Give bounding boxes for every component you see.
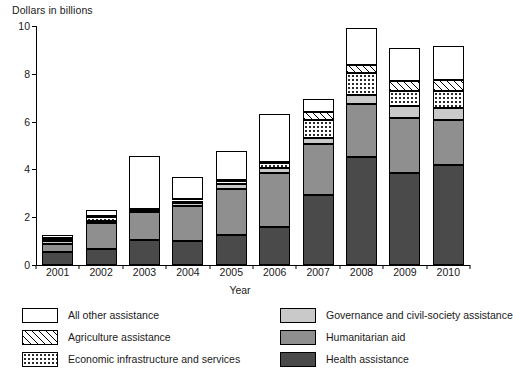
bar-2009 — [389, 48, 420, 265]
y-tick-mark — [32, 169, 36, 170]
bar-segment — [216, 181, 247, 183]
bar-2010 — [433, 46, 464, 265]
x-tick-mark — [470, 265, 471, 269]
y-tick-label: 6 — [0, 116, 30, 127]
bar-segment — [216, 151, 247, 180]
bar-segment — [389, 118, 420, 173]
bar-segment — [172, 206, 203, 241]
bar-segment — [346, 28, 377, 65]
x-tick-label: 2004 — [176, 266, 199, 278]
bar-segment — [433, 108, 464, 120]
bar-segment — [216, 184, 247, 189]
bar-segment — [86, 221, 117, 223]
bar-segment — [389, 106, 420, 118]
bar-segment — [42, 252, 73, 265]
legend-swatch-icon — [280, 308, 316, 323]
bar-segment — [433, 165, 464, 265]
x-tick-mark — [296, 265, 297, 269]
legend-label: Health assistance — [326, 353, 409, 365]
x-tick-label: 2001 — [46, 266, 69, 278]
legend-item: Health assistance — [280, 349, 513, 369]
bar-segment — [389, 81, 420, 91]
bar-segment — [389, 91, 420, 107]
x-tick-label: 2008 — [350, 266, 373, 278]
bar-2005 — [216, 151, 247, 265]
bar-segment — [433, 91, 464, 109]
x-tick-mark — [166, 265, 167, 269]
bar-segment — [42, 235, 73, 237]
bar-segment — [433, 80, 464, 91]
x-tick-label: 2005 — [220, 266, 243, 278]
bar-2004 — [172, 177, 203, 265]
x-tick-mark — [339, 265, 340, 269]
chart-legend: All other assistanceAgriculture assistan… — [22, 305, 462, 367]
bar-segment — [346, 95, 377, 103]
legend-swatch-icon — [22, 352, 58, 367]
bar-segment — [129, 156, 160, 209]
x-tick-mark — [253, 265, 254, 269]
bar-2002 — [86, 210, 117, 265]
x-tick-label: 2010 — [437, 266, 460, 278]
bar-segment — [86, 223, 117, 249]
y-tick-label: 4 — [0, 164, 30, 175]
bar-segment — [303, 138, 334, 144]
x-tick-mark — [426, 265, 427, 269]
bar-segment — [172, 203, 203, 207]
legend-item: Agriculture assistance — [22, 327, 240, 347]
bar-segment — [216, 189, 247, 236]
bar-segment — [86, 249, 117, 265]
bar-segment — [216, 235, 247, 265]
x-tick-label: 2007 — [306, 266, 329, 278]
legend-item: All other assistance — [22, 305, 240, 325]
legend-item: Economic infrastructure and services — [22, 349, 240, 369]
bar-segment — [129, 212, 160, 239]
bar-segment — [259, 163, 290, 168]
y-tick-mark — [32, 74, 36, 75]
legend-label: Agriculture assistance — [68, 331, 171, 343]
bar-segment — [172, 201, 203, 203]
bar-segment — [389, 48, 420, 81]
x-tick-label: 2006 — [263, 266, 286, 278]
legend-swatch-icon — [22, 308, 58, 323]
bar-segment — [346, 104, 377, 158]
bar-segment — [259, 168, 290, 173]
legend-label: Economic infrastructure and services — [68, 353, 240, 365]
x-tick-mark — [79, 265, 80, 269]
bar-segment — [433, 120, 464, 164]
bar-segment — [303, 99, 334, 112]
x-tick-mark — [383, 265, 384, 269]
bar-segment — [389, 173, 420, 265]
bar-segment — [42, 241, 73, 243]
legend-column-right: Governance and civil-society assistanceH… — [280, 305, 513, 371]
bar-segment — [303, 144, 334, 194]
y-axis-title: Dollars in billions — [12, 4, 93, 16]
legend-swatch-icon — [280, 352, 316, 367]
y-tick-label: 10 — [0, 21, 30, 32]
legend-swatch-icon — [22, 330, 58, 345]
legend-item: Governance and civil-society assistance — [280, 305, 513, 325]
x-tick-mark — [36, 265, 37, 269]
bar-2001 — [42, 235, 73, 265]
y-tick-mark — [32, 217, 36, 218]
bar-segment — [172, 177, 203, 200]
bar-segment — [303, 112, 334, 120]
y-tick-mark — [32, 26, 36, 27]
legend-column-left: All other assistanceAgriculture assistan… — [22, 305, 240, 371]
x-tick-label: 2009 — [393, 266, 416, 278]
bar-segment — [86, 217, 117, 221]
bar-segment — [86, 210, 117, 216]
x-tick-label: 2002 — [89, 266, 112, 278]
bar-segment — [346, 73, 377, 96]
y-tick-label: 0 — [0, 260, 30, 271]
bar-segment — [129, 240, 160, 265]
bar-segment — [303, 120, 334, 138]
legend-swatch-icon — [280, 330, 316, 345]
x-tick-mark — [122, 265, 123, 269]
bar-2006 — [259, 114, 290, 265]
bar-segment — [42, 239, 73, 241]
bar-segment — [259, 114, 290, 162]
x-tick-label: 2003 — [133, 266, 156, 278]
legend-item: Humanitarian aid — [280, 327, 513, 347]
plot-area — [36, 26, 470, 265]
